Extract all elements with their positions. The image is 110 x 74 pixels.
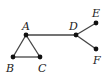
node-f	[94, 47, 99, 52]
labels: A B C D E F	[5, 7, 101, 74]
node-d	[74, 33, 79, 38]
node-e	[94, 21, 99, 26]
node-b	[11, 55, 16, 60]
label-d: D	[68, 20, 78, 33]
label-c: C	[38, 62, 47, 74]
edge-a-b	[13, 35, 26, 57]
graph-diagram: A B C D E F	[0, 0, 110, 74]
node-a	[24, 33, 29, 38]
edge-d-e	[76, 23, 96, 35]
label-a: A	[21, 20, 30, 33]
edge-a-c	[26, 35, 40, 57]
node-c	[38, 55, 43, 60]
label-f: F	[92, 54, 101, 67]
label-b: B	[5, 62, 14, 74]
edge-d-f	[76, 35, 96, 49]
label-e: E	[91, 7, 100, 20]
